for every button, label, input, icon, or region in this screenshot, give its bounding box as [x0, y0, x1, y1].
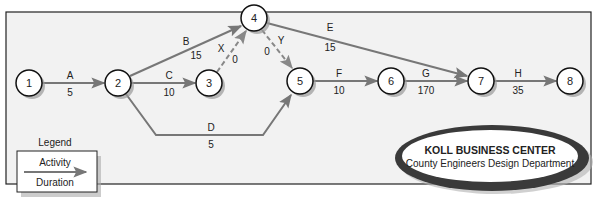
label-c-duration: 10 — [163, 87, 175, 98]
label-b-name: B — [183, 36, 190, 47]
node-8-label: 8 — [567, 75, 573, 87]
node-3-label: 3 — [206, 77, 212, 89]
label-b-duration: 15 — [190, 50, 202, 61]
label-d-name: D — [207, 122, 214, 133]
legend-title: Legend — [38, 137, 71, 148]
network-diagram: A 5 B 15 C 10 D 5 E 15 F 10 G 170 H 35 X… — [0, 0, 596, 198]
label-x-duration: 0 — [232, 54, 238, 65]
node-4-label: 4 — [251, 12, 257, 24]
label-c-name: C — [165, 70, 172, 81]
label-f-duration: 10 — [333, 85, 345, 96]
title-badge-inner — [402, 130, 578, 182]
label-a-duration: 5 — [67, 87, 73, 98]
node-5-label: 5 — [297, 75, 303, 87]
label-e-name: E — [327, 22, 334, 33]
node-1-label: 1 — [26, 77, 32, 89]
node-7-label: 7 — [478, 75, 484, 87]
label-a-name: A — [67, 70, 74, 81]
label-h-duration: 35 — [512, 85, 524, 96]
title-badge-line2: County Engineers Design Department — [406, 158, 575, 169]
label-g-duration: 170 — [418, 85, 435, 96]
label-y-duration: 0 — [264, 46, 270, 57]
label-g-name: G — [422, 68, 430, 79]
label-h-name: H — [514, 68, 521, 79]
label-f-name: F — [336, 68, 342, 79]
label-e-duration: 15 — [324, 42, 336, 53]
node-6-label: 6 — [388, 75, 394, 87]
legend-duration-label: Duration — [36, 177, 74, 188]
label-x-name: X — [218, 43, 225, 54]
node-2-label: 2 — [115, 77, 121, 89]
legend-activity-label: Activity — [39, 157, 71, 168]
label-d-duration: 5 — [208, 139, 214, 150]
label-y-name: Y — [278, 35, 285, 46]
title-badge-line1: KOLL BUSINESS CENTER — [424, 144, 555, 156]
